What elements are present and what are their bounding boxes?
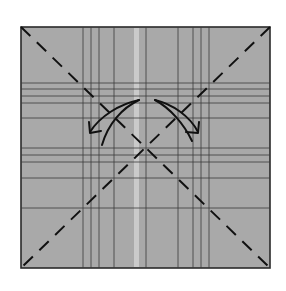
light-strip <box>134 28 139 267</box>
origami-diagram <box>0 0 286 291</box>
